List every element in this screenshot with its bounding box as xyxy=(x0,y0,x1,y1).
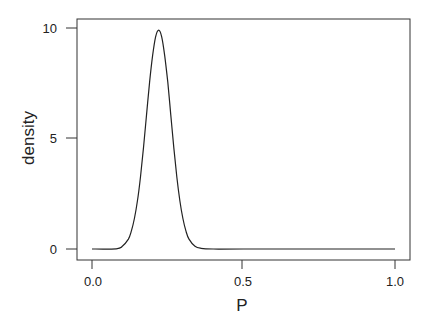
x-axis: 0.0 0.5 1.0 P xyxy=(84,260,404,315)
y-axis: 10 5 0 density xyxy=(19,21,77,257)
x-axis-title: P xyxy=(236,296,247,315)
y-axis-title: density xyxy=(19,111,38,165)
x-tick-label-1: 1.0 xyxy=(386,274,404,289)
x-tick-label-0: 0.0 xyxy=(84,274,102,289)
y-tick-label-10: 10 xyxy=(43,21,57,36)
y-tick-label-0: 0 xyxy=(50,242,57,257)
density-plot: 10 5 0 density 0.0 0.5 1.0 P xyxy=(0,0,433,328)
x-tick-label-0.5: 0.5 xyxy=(234,274,252,289)
y-tick-label-5: 5 xyxy=(50,131,57,146)
plot-frame xyxy=(77,19,410,260)
density-curve xyxy=(92,30,395,249)
